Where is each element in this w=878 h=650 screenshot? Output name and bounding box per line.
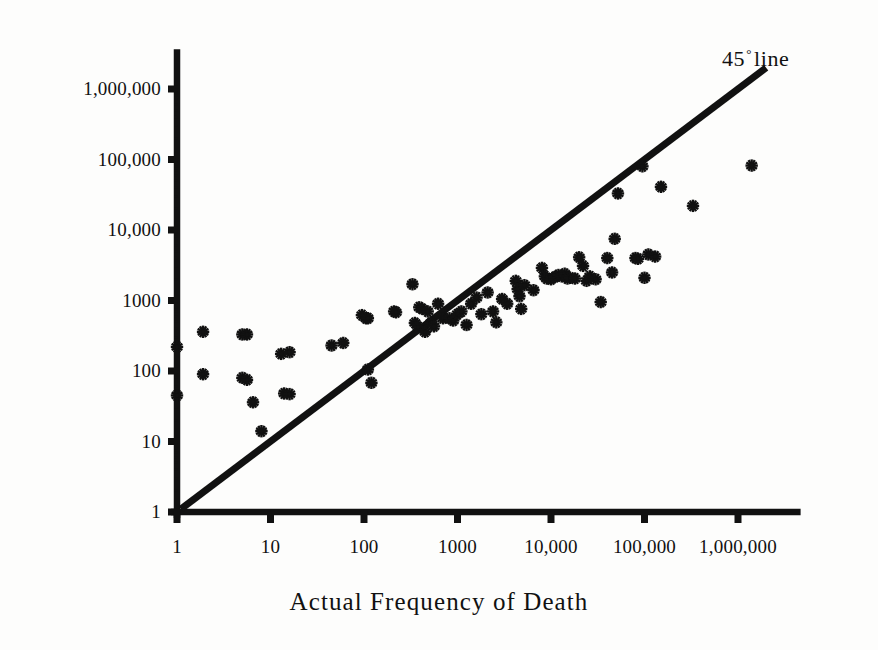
x-tick-label-100: 100	[349, 536, 378, 558]
y-tick-label-10000: 10,000	[108, 219, 161, 241]
reference-line-annotation: 45°line	[722, 46, 789, 72]
data-point-marker	[171, 389, 183, 401]
x-tick-label-1000: 1000	[438, 536, 477, 558]
data-point-marker	[594, 296, 606, 308]
data-point-marker	[515, 303, 527, 315]
data-point-marker	[487, 305, 499, 317]
data-point-marker	[638, 272, 650, 284]
data-point-marker	[687, 200, 699, 212]
data-point-marker	[475, 308, 487, 320]
data-point-marker	[171, 341, 183, 353]
data-point-marker	[460, 319, 472, 331]
reference-line-layer	[181, 68, 766, 509]
data-point-marker	[745, 159, 757, 171]
axes-layer	[168, 49, 801, 523]
x-tick-label-10000: 10,000	[524, 536, 577, 558]
data-point-marker	[601, 252, 613, 264]
x-tick-label-1000000: 1,000,000	[699, 536, 777, 558]
x-tick-label-10: 10	[261, 536, 280, 558]
degree-symbol-icon: °	[745, 46, 754, 61]
data-point-marker	[606, 266, 618, 278]
data-point-marker	[406, 278, 418, 290]
data-point-marker	[247, 396, 259, 408]
y-tick-label-1: 1	[151, 501, 161, 523]
data-point-marker	[197, 368, 209, 380]
y-tick-label-1000000: 1,000,000	[83, 78, 161, 100]
y-tick-label-1000: 1000	[122, 290, 161, 312]
scatter-chart-figure: 110100100010,000100,0001,000,000 1101001…	[0, 0, 878, 650]
reference-line-label-word: line	[754, 46, 789, 71]
data-point-marker	[490, 316, 502, 328]
x-axis-title: Actual Frequency of Death	[0, 588, 878, 616]
data-point-marker	[325, 339, 337, 351]
x-tick-label-1: 1	[172, 536, 182, 558]
reference-line-45-degree	[181, 68, 766, 509]
data-point-marker	[365, 377, 377, 389]
y-tick-label-100: 100	[132, 360, 161, 382]
y-tick-label-10: 10	[142, 431, 161, 453]
y-tick-label-100000: 100,000	[98, 149, 161, 171]
data-point-marker	[337, 337, 349, 349]
data-point-marker	[481, 286, 493, 298]
data-point-marker	[655, 181, 667, 193]
data-point-marker	[255, 425, 267, 437]
x-tick-label-100000: 100,000	[613, 536, 676, 558]
data-point-marker	[612, 187, 624, 199]
data-point-marker	[608, 233, 620, 245]
data-point-marker	[197, 326, 209, 338]
reference-line-label-value: 45	[722, 46, 745, 71]
